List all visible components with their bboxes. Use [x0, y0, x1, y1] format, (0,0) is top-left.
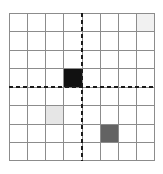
cell-faint-marker	[137, 13, 155, 32]
grid-plot-area	[9, 13, 155, 161]
cell-light-gray-marker	[46, 106, 64, 125]
cell-black-marker	[64, 69, 82, 88]
cell-dark-gray-marker	[100, 124, 118, 143]
grid-svg	[9, 13, 155, 161]
grid-figure	[0, 0, 163, 174]
